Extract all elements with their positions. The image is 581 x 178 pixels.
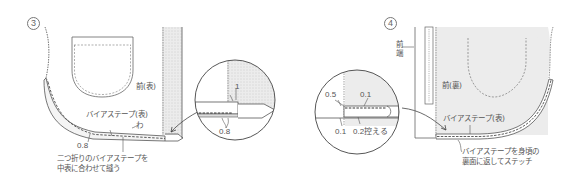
detail4-dim-bottom-right: 0.2控える xyxy=(353,127,388,136)
step4-garment xyxy=(402,27,553,152)
detail4-dim-top-left: 0.5 xyxy=(325,90,336,99)
step3-garment xyxy=(44,27,207,152)
instruction-3-line1: 二つ折りのバイアステープを xyxy=(57,154,148,163)
step4-detail-circle xyxy=(315,66,405,154)
bias-tape-label-3: バイアステープ(表) xyxy=(86,110,148,119)
detail4-dim-bottom-left: 0.1 xyxy=(335,127,346,136)
step3-detail-circle xyxy=(195,55,287,140)
step-number-3: 3 xyxy=(27,17,40,30)
step-number-4: 4 xyxy=(384,17,397,30)
detail3-dim-top: 1 xyxy=(235,82,239,91)
instruction-3-line2: 中表に合わせて縫う xyxy=(57,164,120,173)
bias-tape-label-4: バイアステープ(表) xyxy=(443,114,505,123)
detail4-dim-top-right: 0.1 xyxy=(360,90,371,99)
instruction-4-line2: 裏面に返してステッチ xyxy=(462,157,532,166)
seam-allowance-label: 0.8 xyxy=(77,141,88,150)
instruction-4-line1: バイアステープを身頃の xyxy=(462,147,539,156)
front-wrong-side-label: 前(裏) xyxy=(442,81,462,90)
front-right-side-label: 前(表) xyxy=(136,82,156,91)
front-edge-label: 前端 xyxy=(394,40,403,58)
fold-label: わ xyxy=(136,121,143,130)
detail3-dim-bottom: 0.8 xyxy=(219,127,230,136)
